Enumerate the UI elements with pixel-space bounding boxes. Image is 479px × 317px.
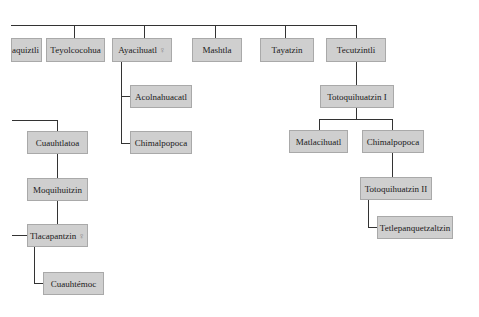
node-label: Totoquihuatzin I (327, 92, 387, 102)
node-acolnahuacatl: Acolnahuacatl (130, 85, 192, 108)
node-label: Chimalpopoca (135, 138, 188, 148)
node-label: aquiztli (12, 45, 39, 55)
node-chimalpopoca-ayacihuatl: Chimalpopoca (130, 131, 192, 154)
node-chimalpopoca-tecutzintli: Chimalpopoca (362, 130, 424, 153)
node-label: Tayatzin (272, 45, 303, 55)
node-label: Tlacapantzin (30, 231, 76, 241)
node-tetlepanquetzaltzin: Tetlepanquetzaltzin (377, 216, 453, 239)
node-mashtla: Mashtla (192, 38, 242, 62)
node-aquiztli: aquiztli (11, 38, 42, 62)
cuauhtlatoa-stem (57, 154, 58, 178)
node-label: Cuauhtlatoa (36, 138, 80, 148)
branch-cuauhtemoc (34, 283, 43, 284)
ayacihuatl-stem (121, 62, 122, 144)
node-cuauhtemoc: Cuauhtémoc (43, 272, 104, 295)
node-label: Tecutzintli (337, 45, 375, 55)
node-moquihuitzin: Moquihuitzin (27, 178, 88, 201)
top-connector (11, 25, 357, 26)
node-ayacihuatl: Ayacihuatl ♀ (112, 38, 172, 62)
drop-teyolcocohua (74, 25, 75, 38)
tlacapantzin-stem (34, 247, 35, 283)
node-label: Acolnahuacatl (135, 92, 187, 102)
node-matlacihuatl: Matlacihuatl (289, 130, 348, 153)
node-label: Ayacihuatl (118, 45, 157, 55)
branch-acolnahuacatl (121, 96, 130, 97)
moquihuitzin-stem (57, 201, 58, 224)
totoquihuatzin-i-stem (356, 108, 357, 119)
drop-chimalpopoca-2 (392, 119, 393, 130)
left-connector (12, 120, 58, 121)
node-totoquihuatzin-i: Totoquihuatzin I (320, 85, 394, 108)
node-cuauhtlatoa: Cuauhtlatoa (27, 131, 88, 154)
totoquihuatzin-ii-stem (368, 200, 369, 227)
node-label: Cuauhtémoc (51, 279, 97, 289)
drop-tayatzin (285, 25, 286, 38)
node-label: Mashtla (203, 45, 232, 55)
female-symbol-icon: ♀ (78, 231, 85, 241)
totoquihuatzin-i-branch (319, 119, 393, 120)
node-tlacapantzin: Tlacapantzin ♀ (27, 224, 88, 247)
branch-chimalpopoca-1 (121, 143, 130, 144)
branch-tetlepanquetzaltzin (368, 227, 377, 228)
node-tayatzin: Tayatzin (260, 38, 314, 62)
node-label: Teyolcocohua (50, 45, 100, 55)
node-tecutzintli: Tecutzintli (326, 38, 386, 62)
female-symbol-icon: ♀ (159, 45, 166, 55)
drop-mashtla (215, 25, 216, 38)
chimalpopoca-stem (392, 153, 393, 177)
node-label: Totoquihuatzin II (365, 184, 428, 194)
left-connector-2 (12, 235, 27, 236)
drop-cuauhtlatoa (57, 120, 58, 131)
node-label: Tetlepanquetzaltzin (380, 223, 450, 233)
node-label: Chimalpopoca (367, 137, 420, 147)
node-teyolcocohua: Teyolcocohua (46, 38, 105, 62)
node-label: Matlacihuatl (296, 137, 341, 147)
drop-tecutzintli (356, 25, 357, 38)
node-totoquihuatzin-ii: Totoquihuatzin II (360, 177, 432, 200)
drop-matlacihuatl (319, 119, 320, 130)
tecutzintli-stem (356, 62, 357, 85)
drop-ayacihuatl (144, 25, 145, 38)
node-label: Moquihuitzin (33, 185, 82, 195)
